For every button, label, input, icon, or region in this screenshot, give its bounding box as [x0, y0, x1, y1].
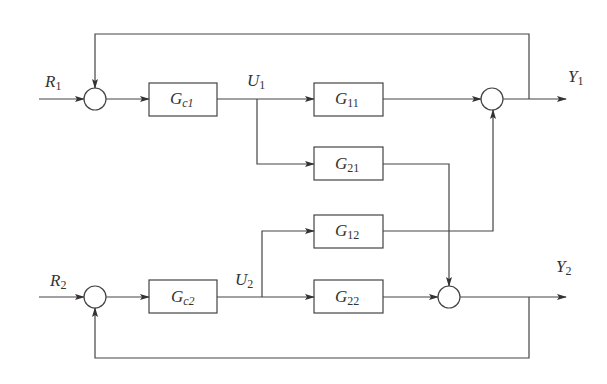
sum-r1-junction	[84, 88, 106, 110]
u2-to-g12-line	[262, 231, 314, 297]
sum-y2-junction	[438, 286, 460, 308]
label-y2: Y2	[556, 257, 571, 278]
block-diagram: R1 R2 U1 U2 Y1 Y2 Gc1 G11 G21 G12 Gc2 G2…	[0, 0, 607, 384]
label-block-g11: G11	[335, 89, 359, 110]
label-u2: U2	[235, 270, 253, 291]
y2-feedback-line	[95, 297, 529, 358]
label-r2: R2	[49, 271, 66, 292]
sum-y1-junction	[481, 88, 503, 110]
u1-to-g21-line	[257, 99, 314, 164]
label-u1: U1	[247, 71, 265, 92]
label-block-gc2: Gc2	[171, 287, 195, 308]
label-y1: Y1	[568, 67, 583, 88]
g12-to-sumy1-line	[383, 110, 493, 231]
label-block-gc1: Gc1	[170, 89, 194, 110]
label-block-g21: G21	[335, 154, 359, 175]
y1-feedback-line	[95, 34, 529, 99]
label-block-g12: G12	[335, 221, 359, 242]
g21-to-sumy2-line	[383, 164, 449, 286]
label-r1: R1	[44, 72, 61, 93]
sum-r2-junction	[84, 286, 106, 308]
label-block-g22: G22	[335, 287, 359, 308]
